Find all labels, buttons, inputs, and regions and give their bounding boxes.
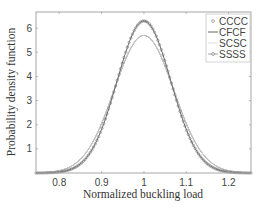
circle-marker-icon <box>212 53 215 56</box>
y-tick-label: 5 <box>26 47 32 58</box>
x-axis-label: Normalized buckling load <box>83 188 203 201</box>
y-axis-label: Probability density function <box>5 28 18 157</box>
legend: CCCC CFCF SCSC SSSS <box>206 14 250 62</box>
x-tick-label: 1 <box>141 177 147 188</box>
x-tick-label: 0.9 <box>95 177 109 188</box>
legend-label: SCSC <box>219 38 247 49</box>
legend-label: CFCF <box>219 27 246 38</box>
y-tick-label: 2 <box>26 119 32 130</box>
legend-label: CCCC <box>219 16 248 27</box>
y-tick-label: 4 <box>26 71 32 82</box>
y-tick-label: 3 <box>26 95 32 106</box>
legend-label: SSSS <box>219 49 246 60</box>
y-tick-label: 1 <box>26 143 32 154</box>
pdf-chart: 0.80.911.11.2 123456 Normalized buckling… <box>0 0 264 208</box>
x-tick-label: 0.8 <box>52 177 66 188</box>
y-tick-label: 6 <box>26 23 32 34</box>
x-tick-label: 1.2 <box>222 177 236 188</box>
x-tick-label: 1.1 <box>179 177 193 188</box>
